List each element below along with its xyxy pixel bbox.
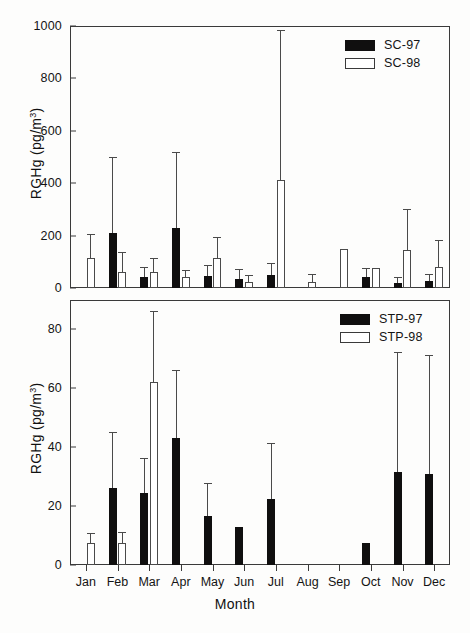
error-cap-sc-98-jun xyxy=(245,275,253,276)
error-cap-sc-98-jan xyxy=(87,234,95,235)
bar-sc-97-mar xyxy=(140,277,148,288)
x-tick-mark-apr xyxy=(181,565,182,571)
x-tick-label-oct: Oct xyxy=(361,575,380,589)
top-y-tick-mark xyxy=(70,130,76,131)
x-tick-mark-nov xyxy=(403,565,404,571)
error-cap-sc-97-feb xyxy=(109,157,117,158)
error-bar-stp-98-mar xyxy=(153,312,154,383)
error-cap-sc-98-dec xyxy=(435,240,443,241)
legend-item-stp-98: STP-98 xyxy=(340,330,423,344)
x-tick-label-feb: Feb xyxy=(107,575,129,589)
bar-stp-97-oct xyxy=(362,543,370,565)
error-bar-sc-98-apr xyxy=(185,271,186,277)
error-bar-stp-97-may xyxy=(207,484,208,516)
bar-stp-97-feb xyxy=(109,488,117,565)
bottom-y-axis-title-tail: ) xyxy=(28,382,44,387)
legend-swatch-sc-98 xyxy=(345,58,375,69)
bar-sc-97-may xyxy=(204,276,212,288)
error-cap-stp-98-jan xyxy=(87,533,95,534)
legend-swatch-stp-98 xyxy=(340,332,370,343)
bar-sc-97-jul xyxy=(267,275,275,288)
error-cap-stp-97-feb xyxy=(109,432,117,433)
x-tick-label-apr: Apr xyxy=(171,575,190,589)
legend-swatch-sc-97 xyxy=(345,40,375,51)
error-bar-stp-97-feb xyxy=(112,433,113,489)
x-tick-mark-sep xyxy=(339,565,340,571)
top-y-axis-title-tail: ) xyxy=(28,107,44,112)
error-cap-sc-98-nov xyxy=(403,209,411,210)
legend-label-stp-98: STP-98 xyxy=(379,330,423,344)
error-cap-sc-97-may xyxy=(204,265,212,266)
x-tick-label-jan: Jan xyxy=(76,575,96,589)
error-cap-sc-97-nov xyxy=(394,277,402,278)
bar-sc-98-sep xyxy=(340,249,348,288)
legend-item-stp-97: STP-97 xyxy=(340,312,423,326)
bar-stp-97-apr xyxy=(172,438,180,565)
top-y-tick-mark xyxy=(70,183,76,184)
bar-stp-97-dec xyxy=(425,474,433,565)
legend-item-sc-98: SC-98 xyxy=(345,56,420,70)
bottom-y-axis-title: RGHg (pg/m3) xyxy=(28,348,45,508)
legend-label-sc-97: SC-97 xyxy=(384,38,420,52)
bar-sc-97-nov xyxy=(394,283,402,288)
bar-sc-98-nov xyxy=(403,250,411,288)
bar-stp-97-may xyxy=(204,516,212,565)
legend-label-sc-98: SC-98 xyxy=(384,56,420,70)
top-legend: SC-97SC-98 xyxy=(345,38,420,70)
x-tick-mark-oct xyxy=(371,565,372,571)
error-bar-sc-98-jan xyxy=(90,235,91,258)
x-tick-label-mar: Mar xyxy=(138,575,160,589)
bar-sc-98-dec xyxy=(435,267,443,288)
error-bar-sc-98-aug xyxy=(312,275,313,282)
x-tick-mark-jun xyxy=(244,565,245,571)
figure-canvas: 02004006008001000 RGHg (pg/m3) SC-97SC-9… xyxy=(0,0,470,633)
error-bar-sc-98-nov xyxy=(407,210,408,250)
error-bar-sc-97-nov xyxy=(397,278,398,283)
bar-stp-97-nov xyxy=(394,472,402,565)
error-cap-stp-97-jul xyxy=(267,443,275,444)
error-bar-sc-97-jul xyxy=(271,264,272,275)
x-tick-mark-jul xyxy=(276,565,277,571)
bar-stp-98-mar xyxy=(150,382,158,565)
top-y-tick-mark xyxy=(70,26,76,27)
error-cap-sc-98-feb xyxy=(118,252,126,253)
x-tick-label-jul: Jul xyxy=(268,575,284,589)
top-y-tick-mark xyxy=(70,288,76,289)
x-tick-label-jun: Jun xyxy=(234,575,254,589)
error-cap-sc-97-mar xyxy=(140,267,148,268)
error-bar-stp-97-nov xyxy=(397,353,398,472)
error-cap-sc-97-oct xyxy=(362,268,370,269)
bar-sc-98-oct xyxy=(372,268,380,288)
bar-stp-97-jul xyxy=(267,499,275,565)
bar-sc-97-oct xyxy=(362,277,370,288)
bar-sc-97-dec xyxy=(425,281,433,288)
x-tick-label-nov: Nov xyxy=(391,575,413,589)
top-y-axis-title: RGHg (pg/m3) xyxy=(28,73,45,233)
top-y-tick-mark xyxy=(70,78,76,79)
x-tick-mark-feb xyxy=(118,565,119,571)
x-axis-title: Month xyxy=(0,596,470,612)
bottom-y-tick-mark xyxy=(70,329,76,330)
bottom-y-tick-mark xyxy=(70,565,76,566)
bar-sc-98-jan xyxy=(87,258,95,288)
bottom-y-tick-label: 80 xyxy=(0,322,62,336)
x-tick-mark-mar xyxy=(149,565,150,571)
bottom-y-axis-title-text: RGHg (pg/m xyxy=(28,393,44,475)
legend-item-sc-97: SC-97 xyxy=(345,38,420,52)
bar-sc-97-jun xyxy=(235,279,243,288)
bottom-y-tick-mark xyxy=(70,388,76,389)
bottom-y-tick-label: 0 xyxy=(0,558,62,572)
error-bar-sc-97-dec xyxy=(429,275,430,281)
bar-stp-98-feb xyxy=(118,543,126,565)
x-tick-mark-dec xyxy=(434,565,435,571)
error-bar-stp-97-mar xyxy=(144,459,145,493)
error-bar-sc-98-may xyxy=(217,238,218,258)
error-cap-stp-97-apr xyxy=(172,370,180,371)
legend-swatch-stp-97 xyxy=(340,314,370,325)
error-cap-stp-98-mar xyxy=(150,311,158,312)
error-cap-stp-97-dec xyxy=(425,355,433,356)
error-cap-sc-97-jul xyxy=(267,263,275,264)
error-cap-sc-98-mar xyxy=(150,258,158,259)
bottom-y-tick-mark xyxy=(70,447,76,448)
x-tick-label-aug: Aug xyxy=(296,575,318,589)
